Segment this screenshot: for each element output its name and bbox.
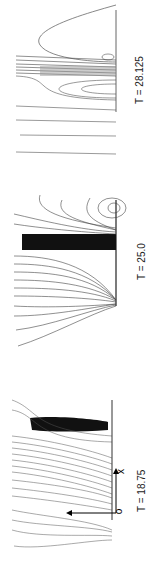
axes-indicator <box>0 370 154 565</box>
panel-t1875: o x T = 18.75 <box>0 370 154 565</box>
panel-label-t1875: T = 18.75 <box>136 470 147 512</box>
x-axis-label: x <box>115 469 126 474</box>
panel-t25: T = 25.0 <box>0 180 154 370</box>
contour-plot-t28 <box>0 0 154 180</box>
panel-label-t25: T = 25.0 <box>136 243 147 280</box>
panel-label-t28: T = 28.125 <box>134 56 145 104</box>
origin-label: o <box>113 509 124 515</box>
contour-plot-t25 <box>0 180 154 370</box>
panel-t28: T = 28.125 <box>0 0 154 180</box>
y-axis-arrow-icon <box>66 510 72 516</box>
